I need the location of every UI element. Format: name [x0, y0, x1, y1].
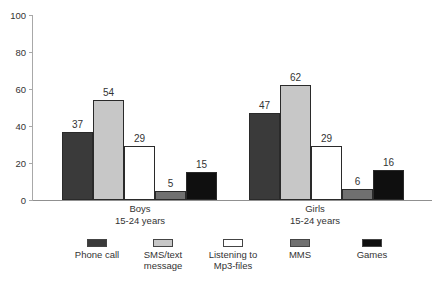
plot-area: 020406080100374754622929561516Boys15-24 … [0, 0, 440, 285]
bar-value-label: 29 [301, 133, 352, 145]
bar-mms-group-1 [342, 189, 373, 200]
legend-swatch [153, 239, 173, 247]
bar-value-label: 29 [114, 133, 165, 145]
legend-swatch [87, 239, 107, 247]
bar-phone-call-group-0 [62, 132, 93, 200]
bar-games-group-1 [373, 170, 404, 200]
bar-value-label: 54 [83, 87, 134, 99]
y-axis-tick-label: 0 [0, 195, 26, 206]
y-axis-tick-label: 80 [0, 47, 26, 58]
legend-swatch [290, 239, 310, 247]
y-axis-tick-label: 20 [0, 158, 26, 169]
y-axis-tick [29, 126, 33, 127]
group-label-boys: Boys15-24 years [80, 203, 200, 226]
y-axis-tick [29, 15, 33, 16]
x-axis [32, 200, 432, 201]
group-label-girls: Girls15-24 years [255, 203, 375, 226]
bar-value-label: 16 [363, 157, 414, 169]
y-axis-tick [29, 89, 33, 90]
y-axis-tick-label: 40 [0, 121, 26, 132]
y-axis-tick-label: 60 [0, 84, 26, 95]
y-axis-tick [29, 52, 33, 53]
bar-listening-to-mp3-files-group-0 [124, 146, 155, 200]
bar-phone-call-group-1 [249, 113, 280, 200]
legend-item-games: Games [326, 239, 418, 260]
legend-swatch [362, 239, 382, 247]
bar-chart: 020406080100374754622929561516Boys15-24 … [0, 0, 440, 285]
bar-mms-group-0 [155, 191, 186, 200]
legend-swatch [223, 239, 243, 247]
legend-label: Games [326, 249, 418, 260]
y-axis-tick [29, 200, 33, 201]
bar-listening-to-mp3-files-group-1 [311, 146, 342, 200]
bar-games-group-0 [186, 172, 217, 200]
bar-sms-text-message-group-0 [93, 100, 124, 200]
bar-value-label: 62 [270, 72, 321, 84]
y-axis-tick-label: 100 [0, 10, 26, 21]
y-axis-tick [29, 163, 33, 164]
bar-value-label: 15 [176, 159, 227, 171]
y-axis [32, 15, 33, 201]
